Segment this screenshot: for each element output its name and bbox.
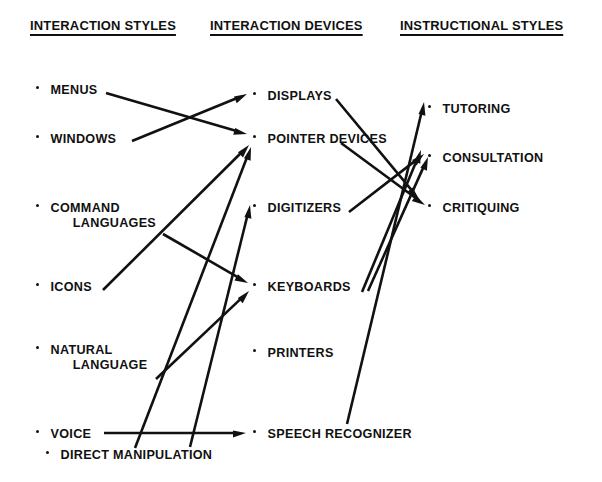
node-label-displays: DISPLAYS [253, 88, 332, 103]
node-digitizers: DIGITIZERS [253, 200, 344, 215]
node-label-keyboards: KEYBOARDS [253, 279, 351, 294]
arrow-pointer-devices-to-critiquing [341, 143, 425, 205]
node-icons: ICONS [36, 279, 94, 294]
node-label-printers: PRINTERS [253, 345, 334, 360]
arrow-digitizers-to-consultation [349, 154, 424, 212]
node-menus: MENUS [36, 82, 99, 97]
arrow-keyboards-to-consultation-a [362, 150, 421, 292]
node-label-command-languages-line2: LANGUAGES [36, 215, 156, 230]
node-label-voice: VOICE [36, 426, 91, 441]
arrow-voice-to-speech-recognizer [104, 430, 246, 437]
arrow-speech-recognizer-to-tutoring [347, 102, 425, 424]
node-windows: WINDOWS [36, 131, 119, 146]
node-displays: DISPLAYS [253, 88, 334, 103]
node-label-menus: MENUS [36, 82, 98, 97]
column-header-interaction-devices: INTERACTION DEVICES [210, 18, 363, 36]
arrow-direct-manipulation-to-digitizers [190, 205, 251, 447]
diagram-canvas: INTERACTION STYLESINTERACTION DEVICESINS… [0, 0, 602, 482]
node-direct-manipulation: DIRECT MANIPULATION [46, 447, 217, 462]
node-natural-language: NATURALLANGUAGE [36, 342, 151, 372]
node-label-direct-manipulation: DIRECT MANIPULATION [46, 447, 212, 462]
node-speech-recognizer: SPEECH RECOGNIZER [253, 426, 417, 441]
node-critiquing: CRITIQUING [428, 200, 523, 215]
node-command-languages: COMMANDLANGUAGES [36, 200, 160, 230]
node-label-command-languages: COMMAND [36, 200, 156, 215]
arrow-windows-to-displays [132, 94, 247, 141]
node-label-windows: WINDOWS [36, 131, 116, 146]
node-tutoring: TUTORING [428, 101, 513, 116]
arrow-keyboards-to-consultation-b [368, 157, 428, 291]
node-label-tutoring: TUTORING [428, 101, 510, 116]
node-label-consultation: CONSULTATION [428, 150, 543, 165]
node-label-critiquing: CRITIQUING [428, 200, 520, 215]
node-label-pointer-devices: POINTER DEVICES [253, 131, 387, 146]
node-label-digitizers: DIGITIZERS [253, 200, 341, 215]
node-voice: VOICE [36, 426, 93, 441]
column-header-interaction-styles: INTERACTION STYLES [30, 18, 176, 36]
arrow-layer [0, 0, 602, 482]
arrow-displays-to-critiquing [336, 99, 419, 199]
node-label-natural-language-line2: LANGUAGE [36, 357, 147, 372]
node-printers: PRINTERS [253, 345, 336, 360]
node-keyboards: KEYBOARDS [253, 279, 354, 294]
arrow-natural-language-to-keyboards [156, 291, 249, 379]
arrow-menus-to-pointer-devices [106, 93, 247, 135]
node-label-speech-recognizer: SPEECH RECOGNIZER [253, 426, 412, 441]
node-label-natural-language: NATURAL [36, 342, 147, 357]
arrow-direct-manipulation-to-pointer-devices [135, 147, 251, 448]
arrow-command-languages-to-keyboards [163, 234, 248, 283]
column-header-instructional-styles: INSTRUCTIONAL STYLES [400, 18, 563, 36]
node-consultation: CONSULTATION [428, 150, 547, 165]
node-pointer-devices: POINTER DEVICES [253, 131, 391, 146]
node-label-icons: ICONS [36, 279, 92, 294]
